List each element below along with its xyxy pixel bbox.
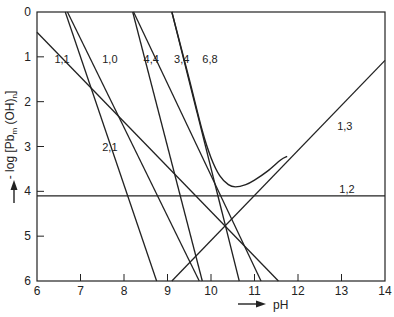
x-tick-label: 11: [248, 284, 261, 298]
y-tick-label: 2: [24, 95, 31, 109]
y-axis-title: - log [Pbm (OH)n]: [3, 91, 19, 180]
x-tick-label: 13: [335, 284, 349, 298]
y-axis-title-group: - log [Pbm (OH)n]: [3, 91, 19, 203]
x-tick-label: 7: [77, 284, 84, 298]
series-label-1-0: 1,0: [102, 53, 117, 65]
y-tick-label: 4: [24, 184, 31, 198]
y-axis-arrowhead-icon: [11, 180, 18, 190]
x-tick-label: 14: [378, 284, 392, 298]
series-label-1-2: 1,2: [339, 183, 354, 195]
x-tick-label: 10: [204, 284, 218, 298]
total-curve-path: [172, 12, 287, 187]
series-line-1-3: [172, 60, 385, 281]
y-tick-label: 5: [24, 229, 31, 243]
x-tick-label: 12: [291, 284, 305, 298]
y-tick-label: 0: [24, 5, 31, 19]
series-label-2-1: 2,1: [102, 141, 117, 153]
x-axis-title-group: pH: [238, 298, 288, 312]
series-label-3-4: 3,4: [174, 53, 189, 65]
chart: 678910111213140123456 1,11,02,14,43,46,8…: [0, 0, 394, 317]
x-tick-label: 6: [34, 284, 41, 298]
series-line-1-1: [37, 32, 278, 281]
series-label-1-3: 1,3: [337, 120, 352, 132]
x-tick-label: 9: [164, 284, 171, 298]
x-tick-label: 8: [121, 284, 128, 298]
total-solubility-curve: [172, 12, 287, 187]
x-axis-title: pH: [273, 298, 288, 312]
y-tick-label: 6: [24, 274, 31, 288]
x-axis-arrowhead-icon: [256, 301, 266, 308]
series-label-1-1: 1,1: [54, 53, 69, 65]
series-labels: 1,11,02,14,43,46,81,21,3: [54, 53, 354, 195]
y-tick-label: 1: [24, 50, 31, 64]
series-label-4-4: 4,4: [144, 53, 159, 65]
series-label-6-8: 6,8: [202, 53, 217, 65]
y-tick-label: 3: [24, 140, 31, 154]
